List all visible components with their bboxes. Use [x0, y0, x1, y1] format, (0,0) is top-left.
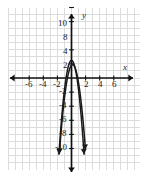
y-tick-label: 4 — [63, 47, 68, 56]
x-tick-label: 4 — [98, 80, 103, 89]
y-axis-label: y — [82, 11, 86, 20]
x-tick-label: 2 — [84, 80, 89, 89]
y-tick-label: 8 — [63, 33, 68, 42]
y-tick-label: -4 — [59, 101, 67, 110]
y-tick-label: -6 — [59, 115, 67, 124]
graph-screenshot: -6-4-224610842-2-4-6-8-10 x y — [0, 0, 146, 180]
y-tick-label: 2 — [63, 61, 68, 70]
x-tick-label: -6 — [25, 80, 33, 89]
y-tick-label: -8 — [59, 129, 67, 138]
x-axis-label: x — [123, 63, 127, 72]
x-tick-label: 6 — [112, 80, 117, 89]
y-tick-label: -2 — [59, 87, 67, 96]
x-tick-label: -4 — [39, 80, 47, 89]
coordinate-plane-chart — [0, 0, 146, 180]
y-tick-label: 10 — [58, 19, 67, 28]
y-tick-label: -10 — [55, 143, 67, 152]
